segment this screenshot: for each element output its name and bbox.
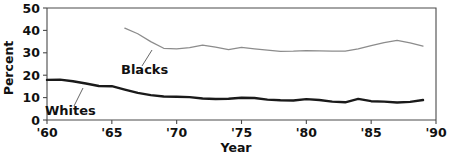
chart-container: 01020304050 '60'65'70'75'80'85'90 Whites…	[0, 0, 453, 156]
y-axis-title: Percent	[1, 41, 16, 96]
x-axis-title: Year	[220, 140, 253, 155]
y-tick-label: 30	[23, 45, 41, 60]
x-tick-label: '90	[425, 125, 447, 140]
x-tick-label: '70	[166, 125, 188, 140]
poverty-rate-line-chart: 01020304050 '60'65'70'75'80'85'90 Whites…	[0, 0, 453, 156]
x-tick-label: '60	[36, 125, 58, 140]
y-tick-label: 20	[23, 68, 41, 83]
x-tick-label: '80	[296, 125, 318, 140]
x-tick-label: '75	[231, 125, 252, 140]
chart-background	[0, 0, 453, 156]
x-tick-label: '65	[101, 125, 122, 140]
blacks-label: Blacks	[121, 62, 168, 77]
y-tick-label: 50	[23, 1, 41, 16]
whites-label: Whites	[45, 103, 96, 118]
x-tick-label: '85	[361, 125, 382, 140]
y-tick-label: 40	[23, 23, 41, 38]
y-tick-label: 10	[23, 90, 41, 105]
